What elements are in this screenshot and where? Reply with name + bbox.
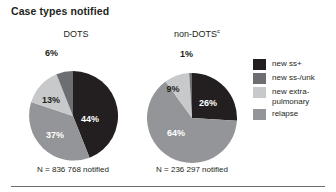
page-title: Case types notified xyxy=(11,5,109,17)
legend-item-relapse: relapse xyxy=(253,109,315,120)
legend-swatch-relapse-icon xyxy=(253,109,266,120)
legend: new ss+ new ss-/unk new extra- pulmonary… xyxy=(253,59,315,123)
pie-chart-non-dots: 26% 64% 9% xyxy=(146,72,238,164)
legend-label-relapse: relapse xyxy=(272,109,298,119)
legend-item-new-ss-neg: new ss-/unk xyxy=(253,73,315,84)
pie-label-non-dots-relapse: 1% xyxy=(180,49,193,59)
bottom-divider xyxy=(11,186,325,187)
pie-label-dots-new-ss-pos: 44% xyxy=(81,114,99,124)
pie-heading-dots-text: DOTS xyxy=(63,29,88,39)
pie-heading-non-dots-footnote: c xyxy=(217,28,220,34)
pie-chart-dots: 44% 37% 13% xyxy=(27,70,119,162)
pie-label-dots-relapse: 6% xyxy=(45,48,58,58)
pie-caption-non-dots: N = 236 297 notified xyxy=(132,165,252,174)
legend-swatch-new-extra-pulmonary-icon xyxy=(253,87,266,98)
legend-swatch-new-ss-neg-icon xyxy=(253,73,266,84)
pie-heading-non-dots-text: non-DOTS xyxy=(174,29,217,39)
pie-slice-non-dots-new-ss-pos xyxy=(192,73,237,121)
pie-label-non-dots-new-ss-neg: 64% xyxy=(167,128,185,138)
legend-item-new-extra-pulmonary: new extra- pulmonary xyxy=(253,87,315,106)
pie-label-dots-new-ss-neg: 37% xyxy=(46,130,64,140)
legend-label-new-ss-pos: new ss+ xyxy=(272,59,302,69)
pie-heading-non-dots: non-DOTSc xyxy=(162,29,232,39)
pie-label-non-dots-new-ss-pos: 26% xyxy=(199,98,217,108)
pie-heading-dots: DOTS xyxy=(46,29,106,39)
pie-caption-dots: N = 836 768 notified xyxy=(13,165,133,174)
legend-label-new-extra-pulmonary: new extra- pulmonary xyxy=(272,87,309,106)
legend-item-new-ss-pos: new ss+ xyxy=(253,59,315,70)
pie-label-dots-new-extra-pulmonary: 13% xyxy=(42,95,60,105)
legend-label-new-ss-neg: new ss-/unk xyxy=(272,73,315,83)
pie-label-non-dots-new-extra-pulmonary: 9% xyxy=(166,84,179,94)
legend-swatch-new-ss-pos-icon xyxy=(253,59,266,70)
